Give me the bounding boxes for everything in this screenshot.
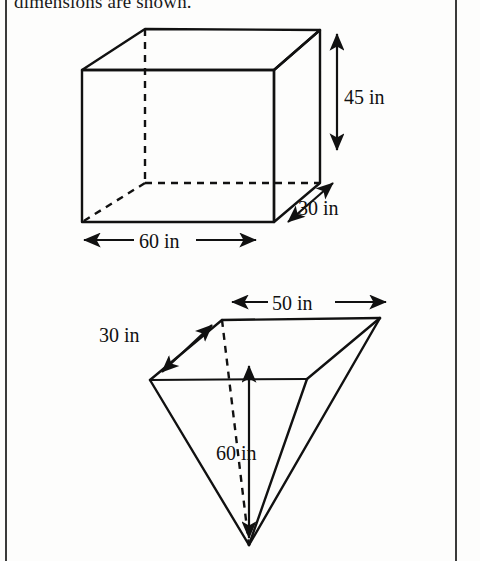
prism-front-face — [82, 70, 274, 222]
pyramid-width-label: 30 in — [99, 324, 140, 346]
prism-hidden-diagonal-edge — [82, 183, 145, 222]
pyramid-top-front-edge — [150, 379, 307, 380]
pyramid-hidden-edge-to-apex — [222, 320, 249, 545]
prism-graphic: 45 in 30 in 60 in — [82, 29, 385, 252]
prism-depth-label: 30 in — [298, 197, 339, 219]
figure-page: dimensions are shown. 45 in — [0, 0, 480, 561]
prism-right-face — [274, 30, 320, 222]
pyramid-edge-back-right-to-apex — [249, 318, 380, 545]
pyramid-graphic: 60 in 50 in 30 in — [99, 292, 386, 545]
prism-top-face — [82, 29, 320, 70]
geometry-figures-svg: 45 in 30 in 60 in — [0, 0, 480, 561]
pyramid-height-label: 60 in — [216, 442, 257, 464]
pyramid-top-right-edge — [307, 318, 380, 379]
pyramid-top-back-edge — [222, 318, 380, 320]
prism-height-label: 45 in — [344, 86, 385, 108]
pyramid-edge-front-right-to-apex — [249, 379, 307, 545]
prism-width-label: 60 in — [139, 230, 180, 252]
pyramid-length-label: 50 in — [272, 292, 313, 314]
pyramid-width-arrow — [162, 325, 212, 372]
